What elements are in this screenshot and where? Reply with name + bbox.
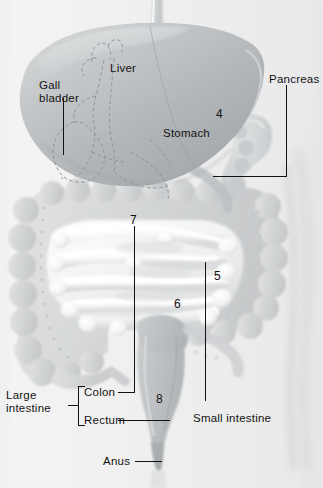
tick-large-intestine [68, 405, 79, 406]
label-large-intestine: Large intestine [6, 389, 51, 414]
label-small-intestine: Small intestine [193, 412, 271, 425]
leader-small-intestine [205, 262, 206, 401]
digestive-system-figure: Liver Gall bladder Pancreas Stomach Larg… [0, 0, 323, 488]
callout-number-6: 6 [174, 298, 181, 310]
leader-pancreas-horizontal [213, 176, 287, 177]
label-pancreas: Pancreas [269, 73, 319, 86]
label-gall-bladder: Gall bladder [39, 79, 79, 104]
leader-anus [135, 461, 162, 462]
callout-number-5: 5 [214, 270, 221, 282]
leader-gall-bladder [63, 98, 64, 155]
label-stomach: Stomach [163, 127, 210, 140]
leader-pancreas-vertical [286, 85, 287, 177]
leader-colon-vertical [134, 226, 135, 392]
callout-number-7: 7 [130, 214, 137, 226]
callout-number-8: 8 [156, 393, 163, 405]
leader-colon-horizontal [118, 392, 135, 393]
label-anus: Anus [103, 455, 130, 468]
callout-number-4: 4 [216, 108, 223, 120]
leader-rectum [118, 420, 170, 421]
label-colon: Colon [84, 386, 115, 399]
label-liver: Liver [110, 62, 136, 75]
label-rectum: Rectum [84, 414, 125, 427]
